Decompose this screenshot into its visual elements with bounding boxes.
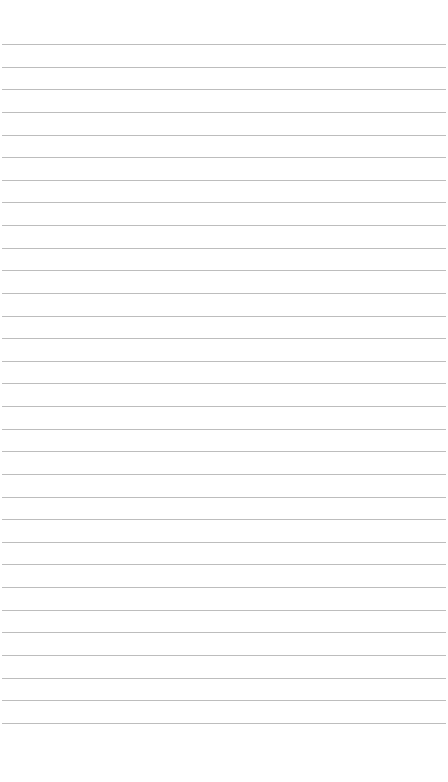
ruled-line [2,723,446,724]
ruled-line [2,564,446,565]
ruled-line [2,112,446,113]
ruled-line [2,338,446,339]
ruled-line [2,361,446,362]
ruled-line [2,542,446,543]
ruled-line [2,67,446,68]
ruled-line [2,293,446,294]
ruled-line [2,587,446,588]
lined-paper-page [0,0,448,782]
ruled-line [2,497,446,498]
ruled-line [2,225,446,226]
ruled-line [2,248,446,249]
ruled-line [2,678,446,679]
ruled-line [2,316,446,317]
ruled-line [2,383,446,384]
ruled-line [2,202,446,203]
ruled-line [2,429,446,430]
ruled-line [2,135,446,136]
ruled-line [2,519,446,520]
ruled-line [2,610,446,611]
ruled-line [2,474,446,475]
ruled-line [2,180,446,181]
ruled-line [2,655,446,656]
ruled-line [2,406,446,407]
ruled-line [2,157,446,158]
ruled-line [2,89,446,90]
ruled-line [2,632,446,633]
ruled-line [2,451,446,452]
ruled-line [2,44,446,45]
ruled-line [2,270,446,271]
ruled-line [2,700,446,701]
